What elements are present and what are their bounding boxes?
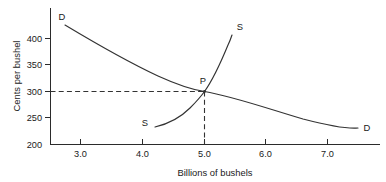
axes-group (51, 8, 381, 145)
x-tick-label-3: 3.0 (74, 149, 87, 159)
y-tick-label-250: 250 (27, 113, 42, 123)
supply-label-bottom: S (142, 117, 148, 128)
y-axis-ticks (45, 39, 51, 118)
demand-label-bottom: D (364, 122, 371, 133)
equilibrium-label: P (200, 75, 206, 86)
chart-plot-area: 400 350 300 250 200 3.0 4.0 5.0 6.0 7.0 … (0, 0, 386, 182)
demand-label-top: D (59, 11, 66, 22)
y-tick-label-350: 350 (27, 60, 42, 70)
x-axis-title: Billions of bushels (177, 167, 252, 178)
x-tick-label-4: 4.0 (136, 149, 149, 159)
x-tick-label-5: 5.0 (198, 149, 211, 159)
equilibrium-guides (51, 92, 205, 145)
y-axis-title: Cents per bushel (11, 41, 22, 112)
supply-demand-chart: 400 350 300 250 200 3.0 4.0 5.0 6.0 7.0 … (0, 0, 386, 182)
x-axis-tick-labels: 3.0 4.0 5.0 6.0 7.0 (74, 149, 334, 159)
y-axis-tick-labels: 400 350 300 250 200 (27, 34, 42, 150)
supply-label-top: S (237, 21, 243, 32)
y-tick-label-400: 400 (27, 34, 42, 44)
equilibrium-point-marker (203, 90, 206, 93)
demand-curve (65, 25, 358, 128)
supply-curve (155, 35, 232, 127)
y-tick-label-200: 200 (27, 140, 42, 150)
y-tick-label-300: 300 (27, 87, 42, 97)
curve-labels: D D S S P (59, 11, 371, 133)
x-tick-label-7: 7.0 (321, 149, 334, 159)
x-tick-label-6: 6.0 (259, 149, 272, 159)
